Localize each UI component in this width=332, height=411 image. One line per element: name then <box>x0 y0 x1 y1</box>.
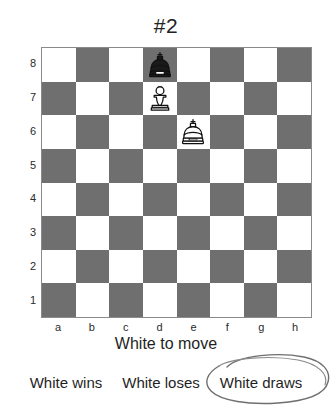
board-square-h7[interactable] <box>277 82 311 116</box>
board-square-c2[interactable] <box>109 250 143 284</box>
file-label-f: f <box>216 321 238 333</box>
board-square-d1[interactable] <box>143 283 177 317</box>
answer-option-white-draws[interactable]: White draws <box>217 373 306 392</box>
board-square-b3[interactable] <box>76 216 110 250</box>
board-square-h6[interactable] <box>277 115 311 149</box>
board-square-f8[interactable] <box>210 48 244 82</box>
file-label-h: h <box>284 321 306 333</box>
board-square-b6[interactable] <box>76 115 110 149</box>
board-square-h4[interactable] <box>277 183 311 217</box>
board-square-e6[interactable] <box>177 115 211 149</box>
rank-label-7: 7 <box>20 91 36 103</box>
board-square-e4[interactable] <box>177 183 211 217</box>
piece-black-king-d8[interactable] <box>145 50 175 80</box>
board-square-f6[interactable] <box>210 115 244 149</box>
board-square-c6[interactable] <box>109 115 143 149</box>
board-square-c8[interactable] <box>109 48 143 82</box>
board-square-f5[interactable] <box>210 149 244 183</box>
board-square-a7[interactable] <box>42 82 76 116</box>
board-square-d7[interactable] <box>143 82 177 116</box>
board-square-d6[interactable] <box>143 115 177 149</box>
board-square-g6[interactable] <box>244 115 278 149</box>
board-square-f4[interactable] <box>210 183 244 217</box>
rank-label-6: 6 <box>20 125 36 137</box>
board-square-b7[interactable] <box>76 82 110 116</box>
file-label-d: d <box>149 321 171 333</box>
board-square-g5[interactable] <box>244 149 278 183</box>
file-label-c: c <box>115 321 137 333</box>
board-square-h5[interactable] <box>277 149 311 183</box>
board-square-e5[interactable] <box>177 149 211 183</box>
board-square-a1[interactable] <box>42 283 76 317</box>
rank-label-1: 1 <box>20 294 36 306</box>
rank-label-5: 5 <box>20 159 36 171</box>
page-title: #2 <box>0 14 332 38</box>
board-square-a3[interactable] <box>42 216 76 250</box>
board-square-d5[interactable] <box>143 149 177 183</box>
file-label-g: g <box>250 321 272 333</box>
board-square-h8[interactable] <box>277 48 311 82</box>
board-square-g4[interactable] <box>244 183 278 217</box>
board-square-f2[interactable] <box>210 250 244 284</box>
board-square-g3[interactable] <box>244 216 278 250</box>
rank-label-4: 4 <box>20 192 36 204</box>
board-square-d8[interactable] <box>143 48 177 82</box>
board-square-f3[interactable] <box>210 216 244 250</box>
answer-option-white-wins[interactable]: White wins <box>27 373 106 392</box>
board-square-h2[interactable] <box>277 250 311 284</box>
file-label-a: a <box>47 321 69 333</box>
board-square-b4[interactable] <box>76 183 110 217</box>
chessboard <box>41 47 312 318</box>
board-square-d3[interactable] <box>143 216 177 250</box>
board-square-g1[interactable] <box>244 283 278 317</box>
board-square-c7[interactable] <box>109 82 143 116</box>
board-square-c5[interactable] <box>109 149 143 183</box>
file-label-b: b <box>81 321 103 333</box>
board-square-e3[interactable] <box>177 216 211 250</box>
board-square-c3[interactable] <box>109 216 143 250</box>
board-square-b1[interactable] <box>76 283 110 317</box>
board-square-f1[interactable] <box>210 283 244 317</box>
board-square-b2[interactable] <box>76 250 110 284</box>
board-square-a5[interactable] <box>42 149 76 183</box>
chessboard-grid <box>41 47 312 318</box>
rank-label-8: 8 <box>20 57 36 69</box>
board-square-g2[interactable] <box>244 250 278 284</box>
file-label-e: e <box>182 321 204 333</box>
piece-white-king-e6[interactable] <box>178 117 208 147</box>
board-square-h1[interactable] <box>277 283 311 317</box>
board-square-a6[interactable] <box>42 115 76 149</box>
board-square-f7[interactable] <box>210 82 244 116</box>
rank-label-2: 2 <box>20 260 36 272</box>
board-square-a4[interactable] <box>42 183 76 217</box>
board-square-e8[interactable] <box>177 48 211 82</box>
answer-option-white-loses[interactable]: White loses <box>119 373 203 392</box>
answer-options: White wins White loses White draws <box>0 368 332 396</box>
board-square-h3[interactable] <box>277 216 311 250</box>
side-to-move-caption: White to move <box>0 335 332 353</box>
board-square-d4[interactable] <box>143 183 177 217</box>
board-square-b8[interactable] <box>76 48 110 82</box>
board-square-e2[interactable] <box>177 250 211 284</box>
board-square-g7[interactable] <box>244 82 278 116</box>
board-square-e1[interactable] <box>177 283 211 317</box>
board-square-a2[interactable] <box>42 250 76 284</box>
rank-label-3: 3 <box>20 226 36 238</box>
board-square-a8[interactable] <box>42 48 76 82</box>
board-square-b5[interactable] <box>76 149 110 183</box>
board-square-g8[interactable] <box>244 48 278 82</box>
board-square-c4[interactable] <box>109 183 143 217</box>
board-square-c1[interactable] <box>109 283 143 317</box>
board-square-e7[interactable] <box>177 82 211 116</box>
piece-white-pawn-d7[interactable] <box>145 83 175 113</box>
board-square-d2[interactable] <box>143 250 177 284</box>
